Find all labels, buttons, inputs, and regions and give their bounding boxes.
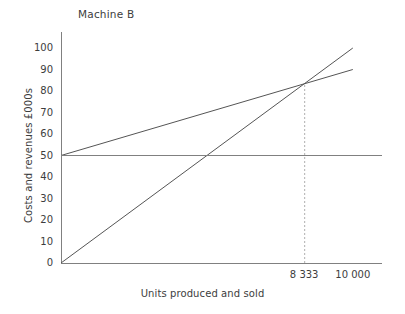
- series-line-total-cost: [61, 70, 353, 156]
- plot-area: [0, 0, 405, 314]
- data-series: [61, 48, 382, 263]
- axes: [62, 32, 383, 264]
- break-even-chart: Machine B Costs and revenues £000s Units…: [0, 0, 405, 314]
